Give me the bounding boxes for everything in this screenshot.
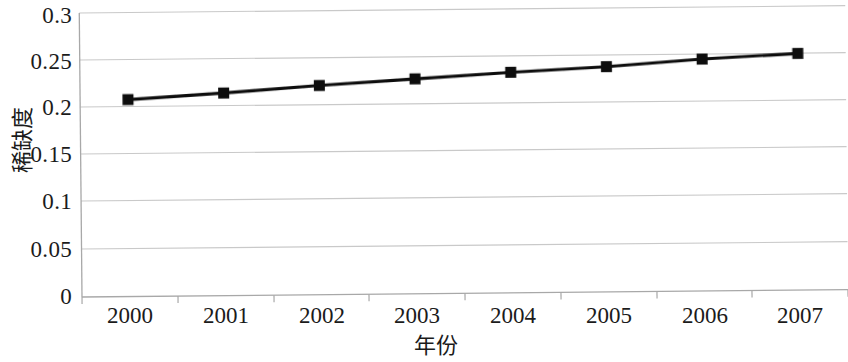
- gridlines: [79, 6, 847, 249]
- data-point-marker: [218, 87, 229, 98]
- x-axis-tickmarks: [82, 290, 848, 304]
- x-tick-label: 2000: [87, 303, 173, 329]
- x-tick-label: 2003: [374, 303, 460, 329]
- x-axis-title: 年份: [0, 334, 848, 358]
- data-point-marker: [601, 61, 612, 72]
- data-point-marker: [314, 80, 325, 91]
- data-point-marker: [409, 73, 420, 84]
- data-point-marker: [122, 94, 133, 105]
- data-point-marker: [697, 54, 708, 65]
- x-tick-label: 2002: [279, 303, 365, 329]
- x-tick-label: 2006: [662, 303, 748, 329]
- x-tick-label: 2007: [757, 303, 843, 329]
- y-axis-line: [79, 13, 82, 297]
- x-tick-label: 2004: [470, 303, 556, 329]
- x-tick-label: 2005: [566, 303, 652, 329]
- x-tick-label: 2001: [183, 303, 269, 329]
- data-point-marker: [505, 67, 516, 78]
- data-point-marker: [792, 48, 803, 59]
- scarcity-by-year-line-chart: 稀缺度 0.3 0.25 0.2 0.15 0.1 0.05 0: [0, 0, 848, 362]
